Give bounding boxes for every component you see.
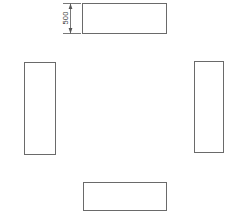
left-rectangle[interactable]	[25, 63, 56, 155]
dimension-label: 500	[61, 11, 70, 24]
drawing-svg: 500	[0, 0, 234, 222]
dimension-annotation-500: 500	[61, 4, 81, 34]
top-rectangle[interactable]	[83, 4, 167, 34]
bottom-rectangle[interactable]	[84, 183, 167, 211]
dimension-arrow-bottom-icon	[69, 28, 73, 34]
dimension-arrow-top-icon	[69, 4, 73, 10]
technical-drawing-canvas: 500	[0, 0, 234, 222]
right-rectangle[interactable]	[195, 62, 224, 153]
